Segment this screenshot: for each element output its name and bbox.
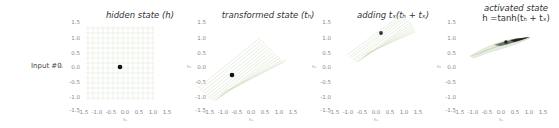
panel-activated-state: activated state h =tanh(tₕ + tₓ) 1.5 1.0… xyxy=(438,0,559,128)
state-point xyxy=(230,73,235,78)
plot-area xyxy=(438,0,559,128)
plot-area xyxy=(313,0,449,128)
row-label: Input #0 xyxy=(31,62,62,70)
plot-area xyxy=(62,0,198,128)
state-point xyxy=(379,31,383,35)
panel-adding-input: adding tₓ(tₕ + tₓ) 1.5 1.0 0.5 0.0 -0.5 … xyxy=(313,0,449,128)
state-point xyxy=(118,65,123,70)
state-point xyxy=(504,40,508,44)
plot-area xyxy=(188,0,324,128)
panel-transformed-state: transformed state (tₕ) 1.5 1.0 0.5 0.0 -… xyxy=(188,0,324,128)
panel-hidden-state: hidden state (h) 1.5 1.0 0.5 0.0 -0.5 -1… xyxy=(62,0,198,128)
